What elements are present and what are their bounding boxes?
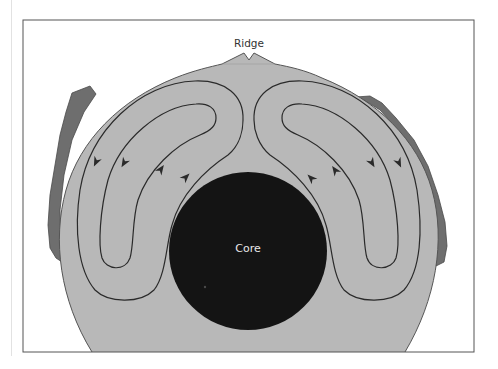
core-speck (204, 286, 206, 288)
core-label: Core (235, 242, 261, 255)
mantle-convection-diagram: Ridge Core (0, 0, 498, 369)
ridge-label: Ridge (234, 37, 264, 49)
